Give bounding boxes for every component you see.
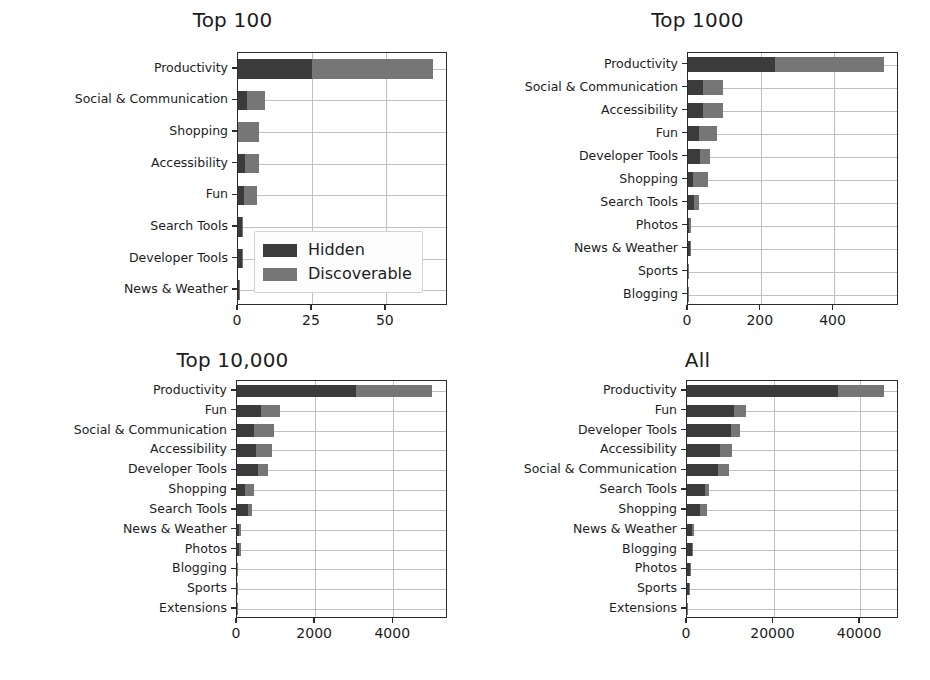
y-gridline <box>238 195 446 196</box>
bar-segment-discoverable <box>261 405 280 417</box>
bar-shopping[interactable] <box>688 172 708 186</box>
chart-legend[interactable]: Hidden Discoverable <box>254 231 423 293</box>
bar-segment-discoverable <box>718 464 729 476</box>
bar-segment-discoverable <box>690 241 691 255</box>
y-gridline <box>687 550 897 551</box>
legend-label-discoverable: Discoverable <box>308 265 412 283</box>
bar-blogging[interactable] <box>687 543 693 555</box>
y-gridline <box>687 490 897 491</box>
legend-entry-hidden[interactable]: Hidden <box>263 238 412 262</box>
y-tick-mark <box>231 429 236 430</box>
bar-productivity[interactable] <box>238 59 433 79</box>
bar-sports[interactable] <box>688 264 689 278</box>
x-tick-mark <box>310 305 311 310</box>
x-gridline <box>860 381 861 617</box>
x-tick-mark <box>392 618 393 623</box>
bar-productivity[interactable] <box>688 57 884 71</box>
bar-photos[interactable] <box>688 218 691 232</box>
bar-segment-discoverable <box>242 217 243 237</box>
bar-accessibility[interactable] <box>687 444 732 456</box>
bar-shopping[interactable] <box>687 504 707 516</box>
y-tick-mark <box>232 225 237 226</box>
bar-developer-tools[interactable] <box>688 149 710 163</box>
bar-segment-hidden <box>688 126 699 140</box>
bar-fun[interactable] <box>237 405 280 417</box>
bar-shopping[interactable] <box>237 484 254 496</box>
bar-search-tools[interactable] <box>238 217 243 237</box>
legend-entry-discoverable[interactable]: Discoverable <box>263 262 412 286</box>
y-tick-mark <box>682 132 687 133</box>
bar-developer-tools[interactable] <box>238 249 243 269</box>
y-axis-category-label: Developer Tools <box>128 462 227 476</box>
bar-accessibility[interactable] <box>688 103 723 117</box>
y-gridline <box>687 609 897 610</box>
bar-news-weather[interactable] <box>688 241 691 255</box>
x-tick-label: 0 <box>682 625 691 641</box>
y-axis-category-label: Blogging <box>623 287 678 301</box>
bar-blogging[interactable] <box>237 563 238 575</box>
x-tick-mark <box>858 618 859 623</box>
bar-segment-hidden <box>687 405 734 417</box>
y-axis-category-label: Productivity <box>153 383 227 397</box>
x-gridline <box>834 53 835 304</box>
bar-search-tools[interactable] <box>687 484 709 496</box>
bar-accessibility[interactable] <box>238 154 259 174</box>
y-axis-category-label: Search Tools <box>149 502 227 516</box>
bar-developer-tools[interactable] <box>687 424 740 436</box>
plot-area-all <box>686 380 898 618</box>
y-gridline <box>237 510 446 511</box>
y-gridline <box>687 530 897 531</box>
y-axis-category-label: Search Tools <box>150 219 228 233</box>
bar-developer-tools[interactable] <box>237 464 268 476</box>
x-gridline <box>761 53 762 304</box>
bar-segment-discoverable <box>693 172 708 186</box>
bar-productivity[interactable] <box>237 385 432 397</box>
bar-search-tools[interactable] <box>688 195 699 209</box>
y-axis-category-label: Social & Communication <box>74 423 227 437</box>
y-axis-category-label: Developer Tools <box>578 423 677 437</box>
y-tick-mark <box>682 201 687 202</box>
y-axis-category-label: News & Weather <box>573 522 677 536</box>
bar-segment-discoverable <box>690 563 691 575</box>
bar-shopping[interactable] <box>238 122 259 142</box>
bar-segment-discoverable <box>694 195 699 209</box>
bar-news-weather[interactable] <box>687 524 694 536</box>
bar-sports[interactable] <box>237 583 238 595</box>
x-tick-label: 4000 <box>374 625 410 641</box>
x-tick-label: 0 <box>232 625 241 641</box>
bar-fun[interactable] <box>238 186 257 206</box>
chart-title-top-100: Top 100 <box>35 8 430 32</box>
bar-segment-hidden <box>237 464 258 476</box>
bar-social-communication[interactable] <box>688 80 723 94</box>
x-gridline <box>774 381 775 617</box>
bar-photos[interactable] <box>237 543 241 555</box>
bar-sports[interactable] <box>687 583 690 595</box>
bar-segment-discoverable <box>734 405 747 417</box>
y-axis-category-label: Extensions <box>159 601 227 615</box>
y-tick-mark <box>682 224 687 225</box>
y-tick-mark <box>231 568 236 569</box>
y-tick-mark <box>681 409 686 410</box>
bar-extensions[interactable] <box>687 603 688 615</box>
y-gridline <box>687 569 897 570</box>
bar-social-communication[interactable] <box>237 424 274 436</box>
bar-productivity[interactable] <box>687 385 884 397</box>
bar-news-weather[interactable] <box>237 524 241 536</box>
y-tick-mark <box>231 469 236 470</box>
bar-social-communication[interactable] <box>238 91 265 111</box>
bar-search-tools[interactable] <box>237 504 252 516</box>
y-tick-mark <box>231 389 236 390</box>
y-tick-mark <box>232 67 237 68</box>
bar-social-communication[interactable] <box>687 464 729 476</box>
bar-segment-hidden <box>237 405 261 417</box>
y-axis-category-label: Social & Communication <box>524 462 677 476</box>
y-tick-mark <box>232 99 237 100</box>
bar-fun[interactable] <box>688 126 717 140</box>
y-axis-category-label: Fun <box>205 403 227 417</box>
bar-segment-discoverable <box>700 504 707 516</box>
bar-accessibility[interactable] <box>237 444 272 456</box>
bar-news-weather[interactable] <box>238 280 240 300</box>
bar-photos[interactable] <box>687 563 691 575</box>
bar-fun[interactable] <box>687 405 746 417</box>
y-gridline <box>237 569 446 570</box>
